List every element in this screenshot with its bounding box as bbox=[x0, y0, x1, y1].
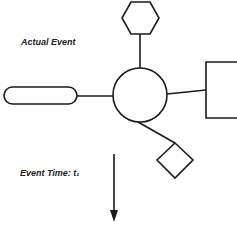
hexagon-node bbox=[122, 2, 159, 34]
time-arrow-head bbox=[110, 210, 118, 222]
connector-bottom-right bbox=[138, 122, 175, 143]
square-node bbox=[206, 62, 237, 118]
connector-right bbox=[167, 90, 206, 94]
diamond-node bbox=[157, 143, 193, 178]
event-diagram bbox=[0, 0, 237, 232]
pill-node bbox=[4, 87, 77, 104]
center-circle-node bbox=[113, 68, 167, 122]
